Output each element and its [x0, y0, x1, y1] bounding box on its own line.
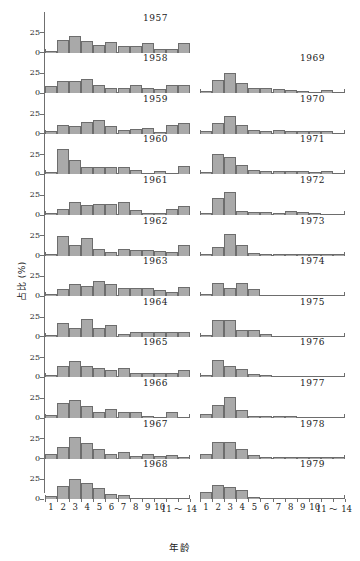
- bar: [166, 455, 178, 459]
- y-tick-mark: [40, 276, 44, 277]
- bar: [45, 86, 57, 93]
- bar: [154, 498, 166, 500]
- bar: [236, 83, 248, 93]
- y-tick-mark: [40, 32, 44, 33]
- bar: [81, 319, 93, 336]
- y-tick-label: 0: [20, 454, 40, 463]
- bar: [154, 89, 166, 93]
- bar: [130, 498, 142, 500]
- bar: [285, 416, 297, 418]
- bar: [236, 125, 248, 134]
- panel-year-label: 1975: [300, 297, 325, 307]
- y-tick-label: 0: [20, 332, 40, 341]
- bar: [130, 85, 142, 94]
- bar: [224, 397, 236, 418]
- bar: [178, 417, 190, 418]
- x-tick-mark: [154, 499, 155, 502]
- bar: [93, 281, 105, 296]
- chart-panel: [200, 104, 345, 134]
- bar: [200, 172, 212, 174]
- bar: [285, 211, 297, 215]
- bar: [333, 295, 345, 296]
- y-tick-mark: [40, 133, 44, 134]
- bar: [178, 166, 190, 175]
- bar: [142, 128, 154, 134]
- bar: [154, 49, 166, 53]
- bar: [57, 486, 69, 499]
- bar: [81, 286, 93, 296]
- bar: [212, 123, 224, 134]
- bar: [69, 400, 81, 418]
- chart-panel: [45, 104, 190, 134]
- y-tick-label: 25: [20, 231, 40, 240]
- bar: [93, 167, 105, 174]
- bar: [224, 234, 236, 255]
- x-tick-mark: [118, 499, 119, 502]
- bar: [273, 254, 285, 255]
- y-tick-mark: [40, 235, 44, 236]
- y-tick-label: 0: [20, 494, 40, 503]
- bar: [69, 160, 81, 174]
- panel-year-label: 1961: [143, 175, 168, 185]
- x-tick-mark: [178, 499, 179, 502]
- bar: [166, 292, 178, 296]
- y-tick-mark: [40, 398, 44, 399]
- panel-year-label: 1973: [300, 216, 325, 226]
- chart-panel: [45, 185, 190, 215]
- bar: [309, 498, 321, 499]
- bar: [57, 289, 69, 296]
- y-tick-mark: [40, 317, 44, 318]
- chart-panel: [45, 429, 190, 459]
- bar: [105, 494, 117, 499]
- y-tick-label: 0: [20, 129, 40, 138]
- x-axis-title: 年龄: [0, 540, 360, 554]
- bar: [142, 332, 154, 337]
- bar: [45, 213, 57, 215]
- x-tick-mark: [142, 499, 143, 502]
- chart-panel: [200, 429, 345, 459]
- bar: [69, 36, 81, 53]
- bar: [118, 249, 130, 255]
- y-tick-label: 25: [20, 68, 40, 77]
- bar: [200, 454, 212, 459]
- chart-panel: [45, 226, 190, 256]
- bar: [81, 238, 93, 255]
- bar: [248, 88, 260, 93]
- bar: [81, 406, 93, 418]
- bar: [260, 416, 272, 418]
- bar: [154, 290, 166, 296]
- bar: [69, 361, 81, 378]
- bar: [130, 250, 142, 256]
- panel-year-label: 1957: [143, 13, 168, 23]
- bar: [333, 254, 345, 255]
- bar: [130, 456, 142, 458]
- bar: [93, 85, 105, 93]
- bar: [200, 335, 212, 337]
- bar: [236, 449, 248, 458]
- bar: [142, 43, 154, 52]
- y-tick-label: 25: [20, 353, 40, 362]
- bar: [105, 284, 117, 296]
- bar: [273, 376, 285, 378]
- bar: [166, 252, 178, 255]
- bar: [142, 373, 154, 378]
- y-tick-mark: [40, 458, 44, 459]
- chart-panel: [200, 388, 345, 418]
- x-tick-mark: [69, 499, 70, 502]
- bar: [130, 412, 142, 418]
- x-tick-mark: [45, 499, 46, 502]
- y-tick-mark: [40, 114, 44, 115]
- panel-year-label: 1962: [143, 216, 168, 226]
- bar: [273, 416, 285, 418]
- y-tick-label: 0: [20, 291, 40, 300]
- bar: [212, 247, 224, 256]
- bar: [178, 287, 190, 296]
- chart-panel: [45, 307, 190, 337]
- x-tick-mark: [236, 499, 237, 502]
- bar: [200, 492, 212, 499]
- bar: [297, 498, 309, 499]
- bar: [333, 457, 345, 458]
- y-tick-label: 0: [20, 169, 40, 178]
- bar: [166, 498, 178, 500]
- bar: [260, 295, 272, 296]
